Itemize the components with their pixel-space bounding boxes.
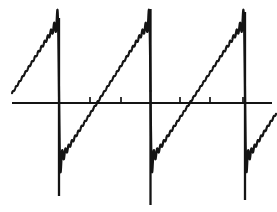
waveform-segment-main-left [59,10,151,172]
waveform-segment-main-right [151,10,246,172]
sawtooth-gibbs-figure [0,0,277,212]
waveform-segment-left-partial [12,10,59,93]
waveform-trace-group [12,10,276,172]
plot-canvas [0,0,277,212]
discontinuity-line-group [59,9,245,205]
